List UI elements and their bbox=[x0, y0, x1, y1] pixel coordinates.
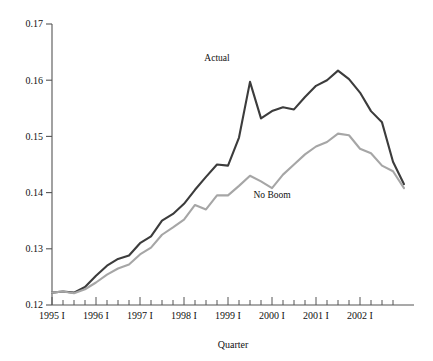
x-tick-label: 2000 I bbox=[259, 310, 285, 321]
y-axis: 0.120.130.140.150.160.17 bbox=[26, 18, 53, 310]
y-tick-label: 0.12 bbox=[26, 299, 44, 310]
series-line-actual bbox=[52, 71, 404, 293]
line-chart-svg: 0.120.130.140.150.160.17 1995 I1996 I199… bbox=[0, 0, 433, 361]
series-label-actual: Actual bbox=[204, 53, 230, 63]
x-tick-label: 1995 I bbox=[39, 310, 65, 321]
data-series-group bbox=[52, 71, 404, 294]
x-tick-label: 1998 I bbox=[171, 310, 197, 321]
series-line-no-boom bbox=[52, 134, 404, 294]
y-tick-label: 0.17 bbox=[26, 18, 44, 29]
x-axis: 1995 I1996 I1997 I1998 I1999 I2000 I2001… bbox=[39, 297, 414, 321]
x-tick-label: 1997 I bbox=[127, 310, 153, 321]
x-axis-title: Quarter bbox=[218, 339, 249, 350]
x-tick-label: 2001 I bbox=[303, 310, 329, 321]
series-label-no-boom: No Boom bbox=[253, 190, 291, 200]
y-tick-label: 0.15 bbox=[26, 131, 44, 142]
x-tick-marks bbox=[52, 297, 393, 305]
y-tick-label: 0.14 bbox=[26, 187, 44, 198]
y-tick-label: 0.16 bbox=[26, 75, 44, 86]
x-tick-label: 2002 I bbox=[347, 310, 373, 321]
y-tick-label: 0.13 bbox=[26, 243, 44, 254]
x-tick-label: 1999 I bbox=[215, 310, 241, 321]
y-tick-labels: 0.120.130.140.150.160.17 bbox=[26, 18, 44, 310]
x-tick-label: 1996 I bbox=[83, 310, 109, 321]
chart-container: 0.120.130.140.150.160.17 1995 I1996 I199… bbox=[0, 0, 433, 361]
x-tick-labels: 1995 I1996 I1997 I1998 I1999 I2000 I2001… bbox=[39, 310, 373, 321]
y-tick-marks bbox=[46, 24, 52, 305]
